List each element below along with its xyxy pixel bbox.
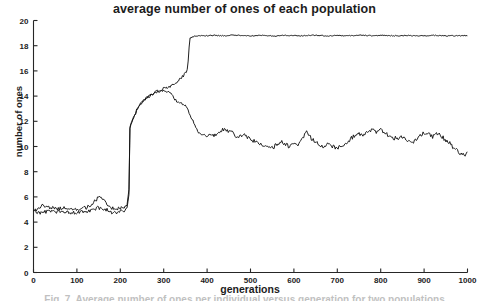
y-tick-label: 0	[24, 269, 29, 278]
y-tick-label: 6	[24, 193, 29, 202]
figure-panel: average number of ones of each populatio…	[0, 0, 489, 301]
series-line-population-2	[34, 90, 467, 214]
y-tick-label: 20	[20, 17, 29, 26]
chart-plot: 0246810121416182001002003004005006007008…	[0, 0, 489, 301]
y-tick-label: 2	[24, 243, 29, 252]
y-tick-label: 4	[24, 218, 29, 227]
y-tick-label: 8	[24, 168, 29, 177]
y-axis-label: number of ones	[13, 77, 24, 167]
figure-caption: Fig. 7. Average number of ones per indiv…	[0, 294, 489, 301]
y-tick-label: 18	[20, 42, 29, 51]
y-tick-label: 16	[20, 67, 29, 76]
series-line-population-1	[34, 35, 467, 211]
